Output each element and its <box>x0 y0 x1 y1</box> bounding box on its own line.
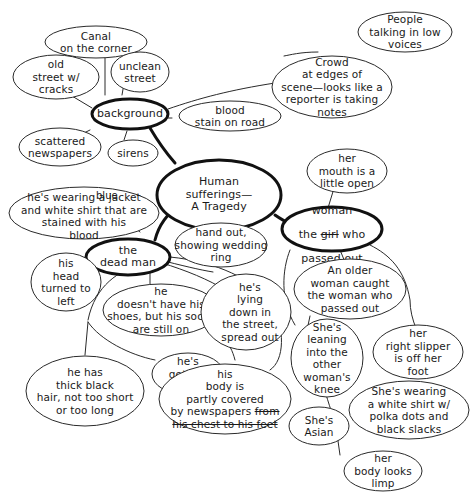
node-people-talking[interactable]: People talking in low voices <box>357 11 453 53</box>
node-head-turned[interactable]: his head turned to left <box>30 252 102 312</box>
node-mouth-open[interactable]: her mouth is a little open <box>306 148 388 194</box>
node-body-limp[interactable]: her body looks limp <box>343 450 423 492</box>
node-scattered-newspapers[interactable]: scattered newspapers <box>18 127 102 167</box>
central-topic[interactable]: Human sufferings— A Tragedy <box>155 158 283 232</box>
node-slipper[interactable]: her right slipper is off her foot <box>372 324 464 380</box>
node-unclean-street[interactable]: unclean street <box>110 51 170 93</box>
node-sirens[interactable]: sirens <box>107 139 159 167</box>
branch-woman[interactable]: woman the girl who passed out <box>280 205 384 253</box>
node-white-shirt[interactable]: She's wearing a white shirt w/ polka dot… <box>348 380 470 440</box>
branch-background[interactable]: background <box>90 97 170 131</box>
central-topic-label: Human sufferings— A Tragedy <box>186 176 253 214</box>
node-black-hair[interactable]: he has thick black hair, not too short o… <box>25 355 145 427</box>
node-lying-down[interactable]: he's lying down in the street, spread ou… <box>200 272 292 352</box>
branch-woman-label: woman the girl who passed out <box>299 193 366 265</box>
struck-text-chest-to-feet: his chest to his feet <box>172 418 277 430</box>
branch-dead-man-label: the dead man <box>100 245 156 270</box>
branch-background-label: background <box>97 108 163 121</box>
node-old-street[interactable]: old street w/ cracks <box>12 54 100 100</box>
node-crowd[interactable]: Crowd at edges of scene—looks like a rep… <box>270 54 394 120</box>
node-jacket[interactable]: blue he's wearing a jacket and white shi… <box>8 186 160 240</box>
node-hand-out[interactable]: hand out, showing wedding ring <box>174 222 268 268</box>
woman-insert-word: woman <box>312 204 353 217</box>
node-older-woman[interactable]: An older woman caught the woman who pass… <box>293 258 407 320</box>
node-asian[interactable]: She's Asian <box>288 406 350 446</box>
node-body-covered[interactable]: his body is partly covered by newspapers… <box>158 362 292 436</box>
node-blood-stain[interactable]: blood stain on road <box>178 99 282 133</box>
struck-word-girl: girl <box>321 228 339 241</box>
struck-text-from: from <box>255 405 280 417</box>
